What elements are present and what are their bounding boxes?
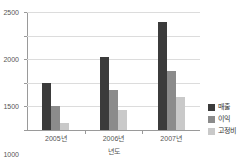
bar [109,90,118,130]
x-axis-line [27,130,200,131]
bar [158,22,167,130]
bar [100,57,109,130]
y-axis-tick-label: 2000 [3,56,19,63]
y-axis-tick: 2500 [24,12,27,13]
legend-item[interactable]: 고정비 [208,125,248,137]
legend-item[interactable]: 이익 [208,113,248,125]
legend-swatch [208,104,215,111]
x-axis-tick-label: 2006년 [103,135,125,143]
bar-group [100,12,127,130]
y-axis-line [27,12,28,131]
legend-label: 매출 [218,103,230,111]
bar [51,106,60,130]
y-axis-tick-label: 1000 [3,150,19,157]
bar [60,123,69,130]
legend-label: 이익 [218,115,230,123]
bar-group [42,12,69,130]
bar [176,97,185,130]
y-axis-tick: 1500 [24,59,27,60]
legend-label: 고정비 [218,127,236,135]
legend-item[interactable]: 매출 [208,101,248,113]
bar [118,110,127,130]
y-axis-tick-label: 2500 [3,9,19,16]
plot-area: 05001000150020002500 2005년2006년2007년 [27,12,200,131]
x-axis-tick-label: 2005년 [45,135,67,143]
x-axis-tick [85,131,86,134]
x-axis-title: 년도 [27,148,200,156]
legend-swatch [208,128,215,135]
bar [42,83,51,130]
y-axis-tick: 0 [24,130,27,131]
legend: 매출이익고정비 [208,101,248,137]
top-cropped-artifact [14,1,144,6]
bar-group [158,12,185,130]
x-axis-tick [142,131,143,134]
x-axis-tick-label: 2007년 [160,135,182,143]
bar [167,71,176,130]
y-axis-tick-label: 1500 [3,103,19,110]
y-axis-tick: 2000 [24,36,27,37]
y-axis-tick: 1000 [24,83,27,84]
legend-swatch [208,116,215,123]
bar-chart: 05001000150020002500 2005년2006년2007년 년도 … [0,0,248,162]
y-axis-tick: 500 [24,106,27,107]
